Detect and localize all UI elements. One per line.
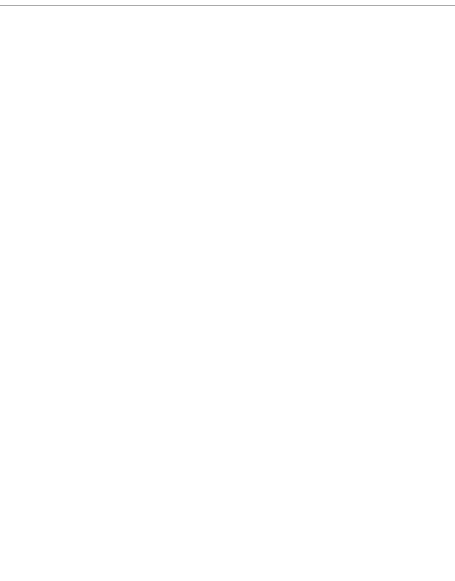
figure-root bbox=[0, 0, 455, 581]
plot-canvas bbox=[0, 0, 455, 581]
scan-artifact-line bbox=[0, 5, 455, 6]
